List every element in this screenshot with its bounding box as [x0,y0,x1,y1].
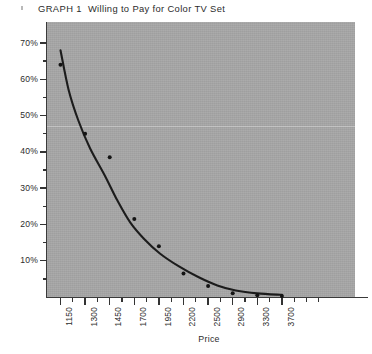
x-tick-minor [318,298,319,302]
x-tick-label: 1450 [113,307,123,326]
y-tick-label: 10% [20,255,38,265]
y-tick-minor [43,169,48,170]
x-tick-major [109,298,110,305]
x-tick-minor [72,298,73,302]
scan-artifact-speck [21,6,23,10]
y-tick-major [40,224,47,225]
y-tick-label: 30% [20,183,38,193]
y-tick-minor [43,278,48,279]
x-axis-title: Price [198,334,220,344]
x-tick-label: 1300 [89,307,99,326]
y-tick-major [40,115,47,116]
x-tick-label: 1150 [64,307,74,326]
x-tick-major [60,298,61,305]
x-tick-major [281,298,282,305]
x-tick-minor [306,298,307,302]
y-tick-label: 50% [20,110,38,120]
x-tick-label: 2500 [212,307,222,326]
x-tick-minor [244,298,245,302]
y-tick-major [40,187,47,188]
x-tick-major [158,298,159,305]
y-tick-label: 40% [20,146,38,156]
x-tick-minor [121,298,122,302]
x-tick-major [84,298,85,305]
y-tick-major [40,151,47,152]
x-tick-major [257,298,258,305]
y-tick-label: 60% [20,74,38,84]
x-tick-major [134,298,135,305]
y-tick-minor [43,97,48,98]
x-tick-minor [220,298,221,302]
y-tick-minor [43,242,48,243]
scan-streak [47,126,355,127]
y-tick-label: 70% [20,38,38,48]
chart-title: GRAPH 1 Willing to Pay for Color TV Set [38,3,225,14]
x-tick-label: 3700 [286,307,296,326]
x-tick-label: 3300 [261,307,271,326]
x-tick-major [232,298,233,305]
y-tick-minor [43,206,48,207]
y-tick-minor [43,133,48,134]
x-tick-minor [97,298,98,302]
x-tick-minor [146,298,147,302]
x-tick-major [183,298,184,305]
x-tick-minor [269,298,270,302]
x-tick-label: 1950 [163,307,173,326]
y-tick-major [40,79,47,80]
y-tick-label: 20% [20,219,38,229]
x-tick-minor [294,298,295,302]
plot-area [47,22,355,297]
plot-texture [47,22,355,297]
x-tick-minor [171,298,172,302]
x-tick-label: 2200 [187,307,197,326]
y-tick-major [40,260,47,261]
chart-title-text: Willing to Pay for Color TV Set [88,3,225,14]
x-tick-minor [195,298,196,302]
x-tick-label: 2900 [236,307,246,326]
x-tick-label: 1700 [138,307,148,326]
chart-figure: GRAPH 1 Willing to Pay for Color TV Set … [0,0,372,354]
y-tick-major [40,42,47,43]
y-tick-minor [43,60,48,61]
y-axis-line [46,22,47,298]
x-tick-major [207,298,208,305]
chart-title-label: GRAPH 1 [38,3,82,14]
